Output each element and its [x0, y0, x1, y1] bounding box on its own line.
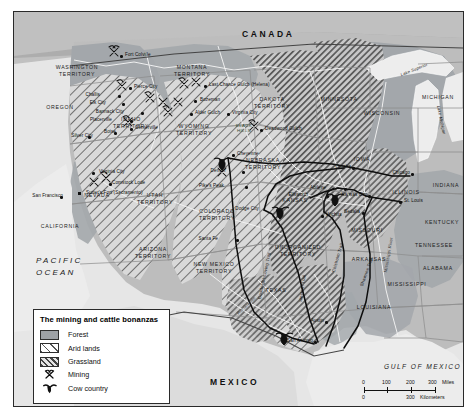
legend-row-cow-country: Cow country [40, 383, 163, 393]
label-louisiana: LOUISIANA [353, 305, 395, 310]
grassland-swatch [40, 357, 59, 367]
label-arizona-territory: ARIZONA TERRITORY [130, 246, 176, 259]
city-label-wichita-21: Wichita [326, 213, 342, 218]
city-label-cheyenne-14: Cheyenne [237, 152, 259, 157]
city-label-centerville-6: Centerville [135, 126, 158, 131]
legend-label-arid-lands: Arid lands [68, 344, 100, 353]
city-label-challis-2: Challis [86, 93, 101, 98]
label-washington-territory: WASHINGTON TERRITORY [48, 64, 106, 77]
label-kentucky: KENTUCKY [422, 220, 462, 225]
scale-miles-tick-100: 100 [382, 379, 391, 385]
scale-miles-tick-200: 200 [406, 379, 415, 385]
city-label-alder-gulch-11: Alder Gulch [195, 111, 220, 116]
label-indiana: INDIANA [429, 183, 463, 188]
city-label-chicago-26: Chicago [392, 171, 410, 176]
arid-lands-swatch [40, 343, 59, 353]
city-label-ellsworth-19: Ellsworth [288, 193, 308, 198]
legend-label-mining: Mining [68, 370, 89, 379]
map-scale-bar: 0 100 200 300 Miles 0 300 Kilometers [362, 379, 464, 401]
label-iowa: IOWA [346, 157, 378, 162]
label-illinois: ILLINOIS [388, 190, 424, 195]
label-dakota-territory: DAKOTA TERRITORY [248, 96, 296, 109]
label-california: CALIFORNIA [37, 224, 83, 229]
city-label-virginia-city-12: Virginia City [232, 111, 258, 116]
city-label-fort-colville-0: Fort Colville [125, 53, 151, 58]
label-wisconsin: WISCONSIN [359, 111, 405, 116]
city-label-elk-city-3: Elk City [90, 101, 106, 106]
city-label-placerville-5: Placerville [90, 118, 112, 123]
label-unorganized-territory: UNORGANIZED TERRITORY [272, 244, 324, 257]
label-mississippi: MISSISSIPPI [386, 282, 428, 287]
legend-label-cow-country: Cow country [68, 384, 108, 393]
city-label-omaha-23: Omaha [335, 165, 351, 170]
city-label-kansas-city-22: Kansas City [341, 193, 367, 198]
label-kansas: KANSAS [277, 198, 313, 203]
city-label-st-louis-25: St. Louis [404, 199, 423, 204]
forest-swatch [40, 330, 59, 340]
city-label-bozeman-10: Bozeman [200, 98, 220, 103]
label-missouri: MISSOURI [347, 228, 387, 233]
label-michigan: MICHIGAN [418, 95, 458, 100]
label-oregon: OREGON [37, 105, 83, 110]
map-frame: CANADAMEXICOPACIFIC OCEANGULF OF MEXICOL… [13, 11, 464, 407]
city-label-sedalia-24: Sedalia [344, 210, 360, 215]
legend-title: The mining and cattle bonanzas [40, 315, 163, 325]
scale-miles-tick-300: 300 [428, 379, 437, 385]
label-nebraska-territory: NEBRASKA TERRITORY [237, 157, 289, 170]
city-label-pierce-city-1: Pierce City [134, 85, 157, 90]
legend-label-grassland: Grassland [68, 357, 101, 366]
city-label-bannack-city-4: Bannack City [96, 110, 124, 115]
city-label-denver-15: Denver [211, 169, 226, 174]
label-minnesota: MINNESOTA [315, 97, 363, 102]
city-label-comstock-lode-30: Comstock Lode [112, 181, 145, 186]
label-black-hills: BLACK HILLS [228, 123, 260, 133]
city-label-santa-fe-17: Santa Fe [199, 237, 218, 242]
scale-miles-unit: Miles [442, 379, 454, 385]
legend-row-mining: Mining [40, 370, 163, 380]
label-colorado-territory: COLORADO TERRITORY [194, 208, 240, 221]
city-label-last-chance-gulch-helena-9: Last Chance Gulch (Helena) [209, 83, 270, 88]
city-label-virginia-city-29: Virginia City [99, 170, 125, 175]
label-wyoming-territory: WYOMING TERRITORY [171, 123, 217, 136]
city-label-deadwood-gulch-13: Deadwood Gulch [265, 127, 302, 132]
cow-head-icon [40, 383, 59, 393]
scale-miles-labels: 0 100 200 300 Miles [362, 379, 464, 386]
scale-km-labels: 0 300 Kilometers [362, 394, 464, 401]
scale-km-tick-300: 300 [406, 394, 415, 400]
city-label-boise-7: Boise [104, 130, 116, 135]
city-label-abilene-20: Abilene [310, 186, 326, 191]
scale-km-unit: Kilometers [420, 394, 445, 400]
label-gulf-of-mexico: GULF OF MEXICO [384, 364, 461, 371]
legend-row-forest: Forest [40, 330, 163, 340]
label-new-mexico-territory: NEW MEXICO TERRITORY [190, 261, 238, 274]
label-pacific-ocean: PACIFIC OCEAN [36, 255, 82, 279]
city-label-san-francisco-27: San Francisco [32, 194, 63, 199]
city-label-austin-31: Austin [311, 319, 324, 324]
label-montana-territory: MONTANA TERRITORY [145, 64, 240, 77]
label-mexico: MEXICO [210, 378, 259, 387]
scale-miles-tick-0: 0 [362, 379, 365, 385]
city-label-sutter-s-fort-sacramento-28: Sutter's Fort (Sacramento) [86, 191, 143, 196]
scale-bar-graphic [362, 387, 464, 393]
label-alabama: ALABAMA [418, 266, 458, 271]
label-tennessee: TENNESSEE [413, 243, 455, 248]
legend-row-arid: Arid lands [40, 343, 163, 353]
legend-row-grassland: Grassland [40, 357, 163, 367]
label-canada: CANADA [242, 30, 294, 39]
map-legend: The mining and cattle bonanzas Forest Ar… [33, 309, 170, 404]
city-label-san-antonio-32: San Antonio [287, 339, 313, 344]
city-label-dodge-city-18: Dodge City [235, 207, 259, 212]
mining-pick-icon [40, 370, 59, 380]
scale-km-tick-0: 0 [362, 394, 365, 400]
historical-map: CANADAMEXICOPACIFIC OCEANGULF OF MEXICOL… [0, 0, 475, 417]
legend-label-forest: Forest [68, 330, 88, 339]
city-label-pike-s-peak-16: Pike's Peak [199, 184, 224, 189]
city-label-silver-city-8: Silver City [71, 134, 93, 139]
